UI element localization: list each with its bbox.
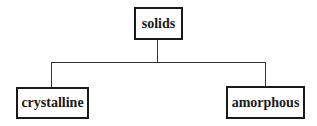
- node-crystalline: crystalline: [16, 87, 89, 119]
- connector-root-down: [157, 39, 158, 63]
- connector-right-down: [265, 62, 266, 87]
- node-label: amorphous: [232, 95, 300, 111]
- node-solids: solids: [134, 7, 183, 40]
- node-label: crystalline: [21, 95, 83, 111]
- connector-left-down: [51, 62, 52, 87]
- node-amorphous: amorphous: [226, 86, 305, 119]
- node-label: solids: [142, 16, 175, 32]
- connector-horizontal: [51, 62, 266, 63]
